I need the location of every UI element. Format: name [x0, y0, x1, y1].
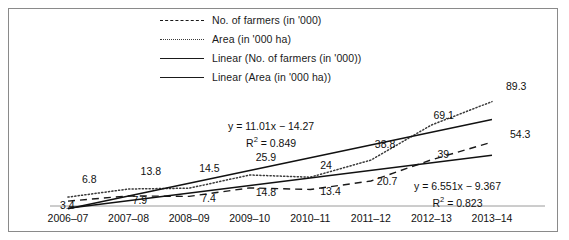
x-tick-label-4: 2010–11	[290, 212, 330, 224]
point-label-area-6: 69.1	[433, 109, 453, 121]
point-label-farmers-5: 20.7	[377, 175, 397, 187]
equation-area-formula: y = 11.01x − 14.27	[228, 120, 314, 132]
equation-area-trend: y = 11.01x − 14.27 R2 = 0.849	[228, 120, 314, 150]
x-tick-label-2: 2008–09	[169, 212, 210, 224]
point-label-farmers-4: 13.4	[320, 185, 340, 197]
point-label-area-5: 38.8	[375, 138, 395, 150]
point-label-farmers-0: 3.4	[60, 199, 75, 211]
point-label-farmers-3: 14.8	[256, 186, 276, 198]
equation-farmers-formula: y = 6.551x − 9.367	[414, 180, 501, 192]
x-tick-label-5: 2011–12	[351, 212, 391, 224]
x-axis-tick-labels: 2006–072007–082008–092009–102010–112011–…	[0, 212, 569, 230]
point-label-farmers-6: 39	[437, 148, 449, 160]
point-label-area-4: 24	[320, 159, 332, 171]
r2-value-area: = 0.849	[258, 137, 296, 149]
r2-value-farmers: = 0.823	[444, 197, 482, 209]
equation-area-r2: R2 = 0.849	[228, 133, 314, 150]
chart-container: No. of farmers (in '000) Area (in '000 h…	[0, 0, 569, 240]
point-label-area-7: 89.3	[506, 80, 526, 92]
x-tick-label-0: 2006–07	[48, 212, 89, 224]
x-tick-label-6: 2012–13	[411, 212, 452, 224]
x-tick-label-7: 2013–14	[472, 212, 513, 224]
equation-farmers-trend: y = 6.551x − 9.367 R2 = 0.823	[414, 180, 501, 210]
point-label-farmers-2: 7.4	[201, 192, 216, 204]
point-label-area-1: 13.8	[141, 165, 161, 177]
x-tick-label-1: 2007–08	[108, 212, 149, 224]
point-label-area-2: 14.5	[199, 162, 219, 174]
r2-prefix-area: R	[246, 137, 254, 149]
point-label-area-0: 6.8	[82, 173, 97, 185]
r2-prefix-farmers: R	[432, 197, 440, 209]
point-label-area-3: 25.9	[256, 151, 276, 163]
point-label-farmers-7: 54.3	[510, 128, 530, 140]
x-tick-label-3: 2009–10	[229, 212, 270, 224]
point-label-farmers-1: 7.9	[133, 194, 148, 206]
equation-farmers-r2: R2 = 0.823	[414, 193, 501, 210]
